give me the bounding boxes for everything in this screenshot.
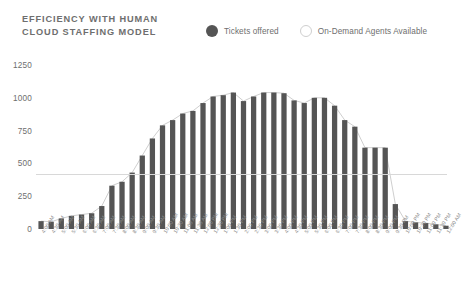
chart-legend: Tickets offered On-Demand Agents Availab… [206, 23, 439, 39]
y-axis: 025050075010001250 [0, 55, 36, 235]
bar[interactable] [312, 98, 317, 229]
bar[interactable] [211, 96, 216, 229]
bar[interactable] [271, 93, 276, 229]
plot-area: 025050075010001250 [0, 55, 457, 235]
y-axis-tick-label: 0 [27, 225, 32, 234]
legend-item-tickets-offered[interactable]: Tickets offered [206, 25, 279, 37]
x-axis-line [36, 174, 447, 175]
y-axis-tick-label: 1250 [13, 61, 32, 70]
y-axis-tick-label: 750 [18, 126, 32, 135]
bar[interactable] [291, 100, 296, 229]
y-axis-tick-label: 250 [18, 192, 32, 201]
bar[interactable] [261, 93, 266, 229]
bar[interactable] [332, 106, 337, 229]
bar[interactable] [200, 103, 205, 229]
bar[interactable] [241, 101, 246, 229]
legend-label-on-demand-agents: On-Demand Agents Available [318, 27, 427, 36]
bar[interactable] [302, 103, 307, 229]
y-axis-tick-label: 500 [18, 159, 32, 168]
legend-label-tickets-offered: Tickets offered [224, 27, 279, 36]
page-title: EFFICIENCY WITH HUMAN CLOUD STAFFING MOD… [22, 13, 212, 38]
bars-and-line-layer [36, 55, 451, 235]
bar[interactable] [281, 93, 286, 229]
filled-circle-icon [206, 25, 218, 37]
legend-item-on-demand-agents[interactable]: On-Demand Agents Available [300, 25, 427, 37]
bar[interactable] [251, 96, 256, 229]
bar[interactable] [221, 95, 226, 229]
bar[interactable] [322, 98, 327, 229]
x-axis: 4:00 AM4:30 AM5:00 AM5:30 AM6:00 AM6:30 … [36, 231, 451, 281]
y-axis-tick-label: 1000 [13, 93, 32, 102]
chart-header: EFFICIENCY WITH HUMAN CLOUD STAFFING MOD… [0, 0, 457, 50]
bar[interactable] [231, 93, 236, 229]
hollow-circle-icon [300, 25, 312, 37]
